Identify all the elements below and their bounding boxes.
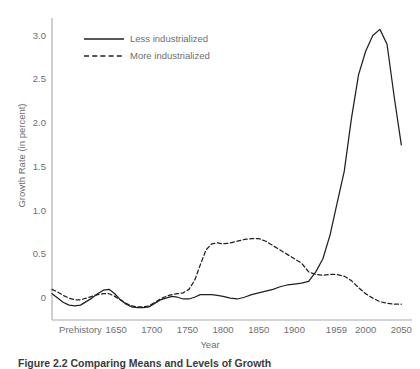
legend-label-less-industrialized: Less industrialized [130, 33, 208, 44]
legend-label-more-industrialized: More industrialized [130, 50, 210, 61]
figure-container: Growth Rate (in percent) Year 00.51.01.5… [0, 0, 420, 369]
data-series-layer [52, 29, 401, 307]
axis-lines [52, 18, 412, 320]
figure-caption: Figure 2.2 Comparing Means and Levels of… [18, 357, 408, 369]
chart-legend [84, 39, 124, 56]
series-line-less-industrialized [52, 29, 401, 307]
chart-plot [0, 0, 420, 369]
